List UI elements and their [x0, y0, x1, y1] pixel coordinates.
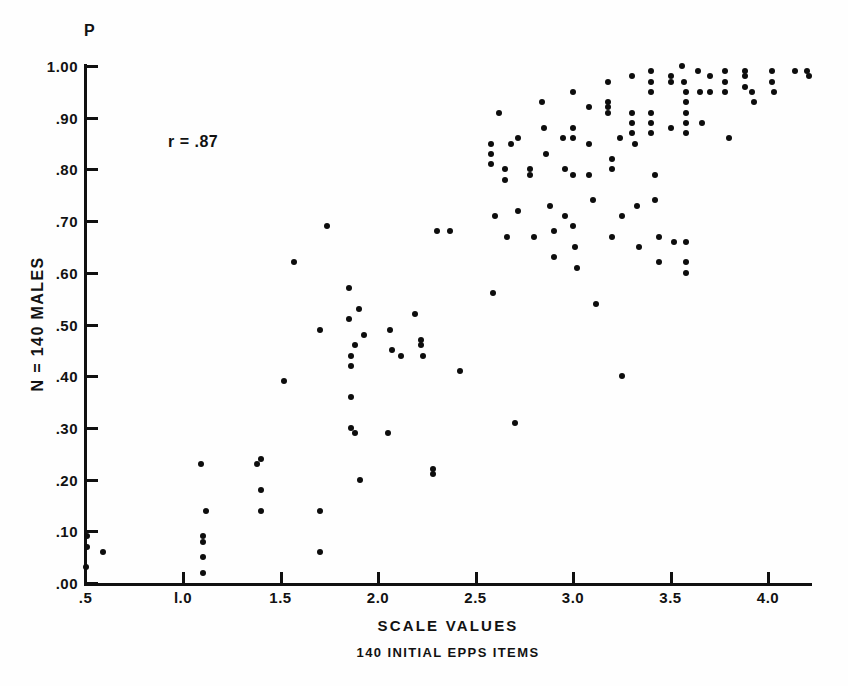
data-point [683, 239, 689, 245]
data-point [348, 394, 354, 400]
data-point [570, 89, 576, 95]
data-point [586, 104, 592, 110]
data-point [619, 373, 625, 379]
data-point [671, 239, 677, 245]
x-axis-tick-label: .5 [79, 589, 93, 606]
data-point [324, 223, 330, 229]
data-point [200, 554, 206, 560]
data-point [488, 161, 494, 167]
data-point [352, 342, 358, 348]
data-point [502, 177, 508, 183]
x-axis-tick-label: 2.5 [464, 589, 486, 606]
data-point [619, 213, 625, 219]
y-axis-tick-label: .20 [10, 471, 78, 488]
data-point [496, 110, 502, 116]
data-point [531, 234, 537, 240]
data-point [488, 141, 494, 147]
data-point [348, 363, 354, 369]
data-point [562, 166, 568, 172]
data-point [346, 285, 352, 291]
data-point [361, 332, 367, 338]
data-point [200, 570, 206, 576]
data-point [668, 125, 674, 131]
y-axis-tick [87, 168, 98, 171]
y-axis-tick [87, 375, 98, 378]
x-axis-tick [767, 572, 770, 583]
y-axis-tick [87, 324, 98, 327]
data-point [203, 508, 209, 514]
data-point [683, 130, 689, 136]
data-point [84, 533, 90, 539]
data-point [617, 135, 623, 141]
x-axis-tick-label: 4.0 [757, 589, 779, 606]
x-axis-tick-label: l.0 [174, 589, 192, 606]
data-point [742, 73, 748, 79]
data-point [434, 228, 440, 234]
data-point [629, 73, 635, 79]
figure-caption: 140 INITIAL EPPS ITEMS [357, 645, 540, 660]
data-point [726, 135, 732, 141]
x-axis-title: SCALE VALUES [377, 617, 518, 634]
x-axis-tick [182, 572, 185, 583]
data-point [515, 135, 521, 141]
data-point [291, 259, 297, 265]
y-axis-tick-label: 1.00 [10, 58, 78, 75]
y-axis-tick-label: .90 [10, 109, 78, 126]
data-point [490, 290, 496, 296]
data-point [679, 63, 685, 69]
data-point [632, 141, 638, 147]
scatter-plot-figure: P N = 140 MALES r = .87 .00.10.20.30.40.… [0, 0, 848, 686]
data-point [652, 172, 658, 178]
data-point [629, 110, 635, 116]
data-point [515, 208, 521, 214]
data-point [609, 234, 615, 240]
data-point [668, 79, 674, 85]
data-point [634, 203, 640, 209]
y-axis-tick [87, 479, 98, 482]
data-point [656, 259, 662, 265]
x-axis-tick [572, 572, 575, 583]
data-point [100, 549, 106, 555]
data-point [609, 166, 615, 172]
x-axis-tick-label: 1.5 [269, 589, 291, 606]
data-point [551, 254, 557, 260]
data-point [648, 79, 654, 85]
data-point [605, 79, 611, 85]
y-axis-tick-label: .70 [10, 213, 78, 230]
data-point [806, 73, 812, 79]
data-point [418, 342, 424, 348]
data-point [570, 135, 576, 141]
data-point [348, 353, 354, 359]
data-point [84, 544, 90, 550]
data-point [543, 151, 549, 157]
data-point [258, 508, 264, 514]
data-point [707, 89, 713, 95]
data-point [447, 228, 453, 234]
data-point [648, 130, 654, 136]
data-point [527, 172, 533, 178]
data-point [562, 213, 568, 219]
x-axis-tick-label: 2.0 [367, 589, 389, 606]
data-point [792, 68, 798, 74]
y-axis-tick [87, 65, 98, 68]
data-point [586, 172, 592, 178]
data-point [254, 461, 260, 467]
y-axis-tick [87, 117, 98, 120]
data-point [593, 301, 599, 307]
data-point [389, 347, 395, 353]
data-point [387, 327, 393, 333]
data-point [200, 539, 206, 545]
data-point [504, 234, 510, 240]
data-point [570, 172, 576, 178]
data-point [590, 197, 596, 203]
data-point [539, 99, 545, 105]
data-point [648, 110, 654, 116]
data-point [683, 110, 689, 116]
data-point [751, 99, 757, 105]
data-point [508, 141, 514, 147]
data-point [683, 259, 689, 265]
data-point [683, 99, 689, 105]
data-point [648, 120, 654, 126]
x-axis-tick [670, 572, 673, 583]
data-point [707, 73, 713, 79]
